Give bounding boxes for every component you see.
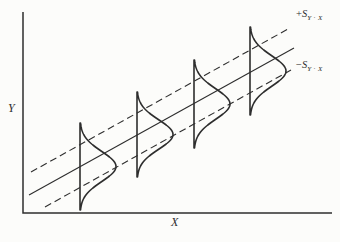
regression-standard-error-figure: Y X +SY · X −SY · X — [0, 0, 340, 242]
y-axis-label: Y — [8, 102, 15, 114]
lower-band-label: −SY · X — [296, 60, 323, 73]
upper-band-subscript: Y · X — [307, 14, 322, 22]
figure-canvas — [0, 0, 340, 242]
lower-band-subscript: Y · X — [307, 65, 322, 73]
x-axis-label: X — [171, 216, 178, 228]
upper-band-label: +SY · X — [296, 9, 323, 22]
